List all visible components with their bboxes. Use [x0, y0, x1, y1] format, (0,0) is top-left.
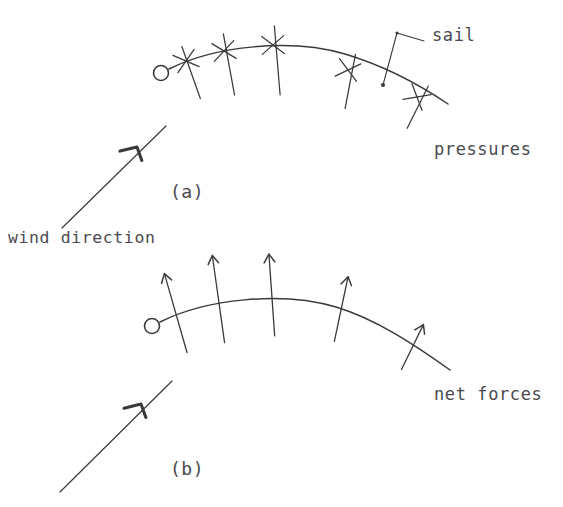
wind-direction-label: wind direction [8, 228, 155, 247]
pressure-marker [328, 51, 363, 110]
panel-b: net forces (b) [60, 254, 542, 492]
sail-leader-dot [381, 83, 385, 87]
pressure-stem [223, 34, 234, 96]
pressure-marker [391, 79, 434, 131]
net-force-arrow [207, 255, 230, 344]
figure-root: sail pressures wind direction (a) net fo… [0, 0, 563, 507]
pressure-barb [212, 41, 236, 62]
pressures-label: pressures [434, 139, 532, 159]
panel-label-b: (b) [170, 458, 204, 479]
wind-shaft [62, 126, 166, 228]
wind-arrowhead [124, 398, 150, 424]
pressure-stem [405, 86, 431, 128]
pressure-barb [335, 59, 361, 82]
sail-leader [381, 33, 424, 87]
sail-pressure-figure: sail pressures wind direction (a) net fo… [0, 0, 563, 507]
arrow-shaft [212, 255, 224, 342]
net-force-arrow [397, 322, 428, 372]
arrow-shaft [164, 274, 187, 353]
pressure-barb [173, 49, 199, 72]
arrow-shaft [334, 277, 348, 342]
pressure-marker [211, 33, 241, 97]
arrow-shaft [269, 254, 275, 336]
pressure-marker [171, 44, 207, 103]
sail-curve-a [169, 46, 448, 104]
wind-shaft [60, 381, 172, 492]
net-force-arrow [159, 272, 192, 354]
sail-leader-corner-dot [395, 31, 398, 34]
net-force-arrow [329, 276, 353, 343]
arrow-shaft [401, 325, 423, 370]
sail-label: sail [432, 25, 475, 45]
mast-circle-b [145, 319, 160, 334]
wind-arrowhead [120, 141, 146, 167]
pressure-stem [274, 26, 280, 95]
net-forces-label: net forces [434, 384, 542, 404]
net-force-arrow [264, 254, 280, 337]
wind-direction-arrow-a [62, 126, 166, 228]
mast-circle-a [154, 66, 169, 81]
panel-a: sail pressures wind direction (a) [8, 25, 532, 247]
wind-direction-arrow-b [60, 381, 172, 492]
net-force-arrow-group [159, 254, 428, 372]
panel-label-a: (a) [170, 181, 204, 202]
pressure-marker [261, 26, 285, 96]
